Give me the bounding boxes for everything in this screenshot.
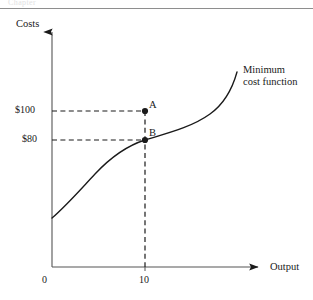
- data-point-a-marker: [142, 108, 148, 114]
- x-tick-label-0: 0: [42, 274, 47, 285]
- data-point-a-label: A: [149, 99, 157, 111]
- curve-annotation-line-1: Minimum: [243, 64, 313, 76]
- figure-container: Chapter Costs Output: [0, 0, 313, 300]
- chart-plot-area: [0, 0, 313, 300]
- x-tick-label-10: 10: [139, 274, 149, 285]
- curve-annotation: Minimum cost function: [243, 64, 313, 88]
- data-point-b-label: B: [149, 127, 156, 139]
- curve-annotation-line-2: cost function: [243, 76, 313, 88]
- x-axis-title: Output: [270, 261, 299, 273]
- data-point-b-marker: [142, 137, 148, 143]
- y-tick-label-100: $100: [15, 104, 35, 115]
- y-tick-label-80: $80: [22, 133, 37, 144]
- y-axis-title: Costs: [16, 18, 39, 30]
